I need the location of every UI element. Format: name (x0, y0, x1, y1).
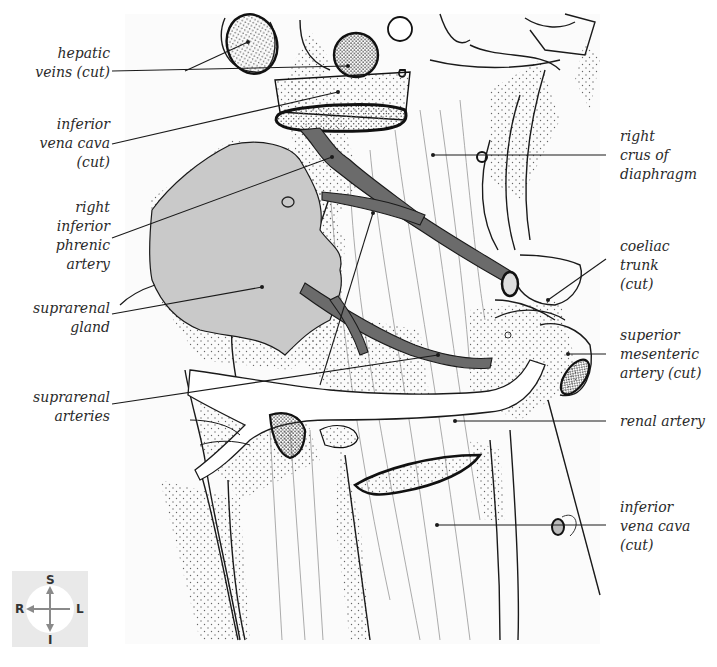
label-renal-artery: renal artery (620, 412, 705, 431)
coeliac-stump (502, 272, 518, 296)
compass-inferior: I (48, 634, 52, 646)
label-coeliac-trunk: coeliac trunk (cut) (620, 237, 670, 294)
anatomy-figure: hepatic veins (cut) inferior vena cava (… (0, 0, 717, 667)
compass-right: R (15, 603, 24, 615)
label-ivc-lower: inferior vena cava (cut) (620, 498, 690, 555)
label-right-crus: right crus of diaphragm (620, 127, 697, 184)
orientation-compass: S I R L (12, 571, 88, 647)
label-right-inferior-phrenic-artery: right inferior phrenic artery (56, 198, 110, 274)
label-suprarenal-arteries: suprarenal arteries (33, 388, 110, 426)
label-superior-mesenteric-artery: superior mesenteric artery (cut) (620, 326, 701, 383)
label-suprarenal-gland: suprarenal gland (33, 299, 110, 337)
compass-superior: S (46, 574, 55, 586)
compass-left: L (76, 603, 84, 615)
label-hepatic-veins: hepatic veins (cut) (35, 44, 110, 82)
label-ivc-upper: inferior vena cava (cut) (40, 115, 110, 172)
